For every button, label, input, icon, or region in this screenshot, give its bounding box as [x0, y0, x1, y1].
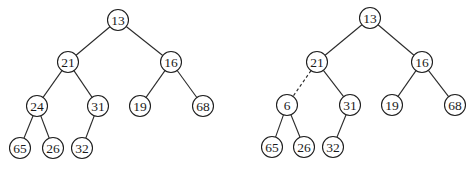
tree-edge [74, 71, 92, 98]
node-label: 21 [310, 55, 324, 70]
tree-node-21: 21 [58, 52, 79, 73]
tree-edge [378, 25, 414, 55]
tree-edge [323, 70, 343, 96]
tree-node-13: 13 [360, 8, 381, 29]
tree-node-68: 68 [193, 96, 214, 117]
tree-node-26: 26 [294, 137, 315, 158]
tree-edge [398, 71, 416, 97]
node-label: 16 [164, 55, 178, 70]
tree-node-68: 68 [445, 95, 466, 116]
tree-edge [86, 116, 95, 138]
tree-node-31: 31 [88, 96, 109, 117]
tree-edge [126, 27, 163, 56]
tree-edge [325, 25, 362, 56]
tree-edge [146, 71, 165, 98]
node-label: 26 [46, 141, 60, 156]
tree-edge [291, 115, 300, 138]
heap-diagram: 13211624311968652632 1321166311968652632 [0, 0, 471, 171]
tree-node-32: 32 [323, 137, 344, 158]
node-label: 19 [385, 98, 399, 113]
tree-node-32: 32 [72, 138, 93, 159]
tree-edge [276, 115, 284, 137]
tree-edge [43, 71, 62, 98]
heap-tree-before: 13211624311968652632 [10, 10, 214, 159]
tree-edge [76, 27, 110, 55]
tree-node-26: 26 [43, 138, 64, 159]
tree-node-16: 16 [161, 52, 182, 73]
tree-node-65: 65 [262, 137, 283, 158]
tree-edge [41, 116, 50, 138]
tree-node-19: 19 [382, 95, 403, 116]
node-label: 16 [415, 55, 429, 70]
node-label: 13 [111, 13, 125, 28]
node-label: 65 [265, 140, 279, 155]
tree-edge [24, 116, 33, 139]
tree-node-19: 19 [130, 96, 151, 117]
node-label: 31 [91, 99, 105, 114]
dashed-edge [293, 71, 311, 97]
node-label: 26 [297, 140, 311, 155]
node-label: 24 [30, 99, 44, 114]
tree-node-6: 6 [277, 95, 298, 116]
tree-node-16: 16 [412, 52, 433, 73]
tree-node-21: 21 [307, 52, 328, 73]
heap-tree-after-insert: 1321166311968652632 [262, 8, 466, 158]
tree-edge [428, 70, 448, 96]
tree-edge [337, 115, 346, 138]
node-label: 31 [343, 98, 357, 113]
node-label: 21 [61, 55, 75, 70]
tree-node-24: 24 [27, 96, 48, 117]
node-label: 32 [326, 140, 340, 155]
node-label: 68 [448, 98, 462, 113]
tree-node-65: 65 [10, 138, 31, 159]
node-label: 6 [284, 98, 291, 113]
node-label: 19 [133, 99, 147, 114]
node-label: 65 [13, 141, 27, 156]
tree-node-13: 13 [108, 10, 129, 31]
node-label: 13 [363, 11, 377, 26]
node-label: 68 [196, 99, 210, 114]
tree-node-31: 31 [340, 95, 361, 116]
node-label: 32 [75, 141, 89, 156]
tree-edge [177, 70, 197, 97]
